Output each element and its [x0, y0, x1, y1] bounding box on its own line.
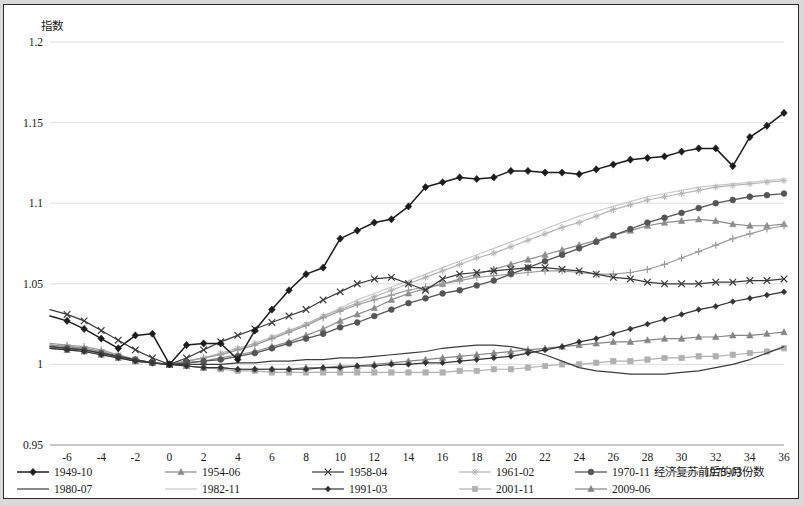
marker-diamond [610, 161, 617, 168]
marker-diamond [98, 335, 105, 342]
x-tick-label: -6 [62, 451, 72, 463]
x-tick-label: 8 [303, 451, 309, 463]
series-2009-06 [50, 329, 787, 372]
legend-item-1991-03[interactable]: 1991-03 [312, 483, 388, 495]
marker-diamond [662, 316, 667, 322]
legend-label: 2009-06 [612, 483, 651, 495]
legend-label: 2001-11 [496, 483, 534, 495]
legend-item-2001-11[interactable]: 2001-11 [459, 483, 534, 495]
marker-circle [252, 350, 258, 356]
legend-item-1961-02[interactable]: 1961-02 [459, 466, 535, 478]
x-tick-label: 0 [167, 451, 173, 463]
marker-star [678, 190, 685, 197]
marker-x [320, 297, 327, 304]
series-1980-07 [50, 345, 784, 374]
marker-diamond [713, 303, 718, 309]
marker-square [594, 360, 599, 365]
marker-square [508, 367, 513, 372]
legend-item-1954-06[interactable]: 1954-06 [165, 466, 241, 478]
series-1982-11 [50, 179, 784, 364]
marker-diamond [679, 312, 684, 318]
legend-label: 1982-11 [202, 483, 240, 495]
marker-plus [712, 242, 719, 249]
legend-item-1970-11[interactable]: 1970-11 [575, 466, 650, 478]
marker-triangle [695, 216, 701, 222]
x-tick-label: 30 [676, 451, 688, 463]
y-tick-label: 1 [37, 358, 43, 370]
marker-star [764, 179, 771, 186]
marker-diamond [576, 171, 583, 178]
marker-x [234, 332, 241, 339]
series-1975-03 [50, 222, 788, 368]
x-tick-label: 2 [201, 451, 207, 463]
legend-item-1982-11[interactable]: 1982-11 [165, 483, 240, 495]
series-1961-02 [50, 177, 787, 368]
marker-x [64, 311, 71, 318]
legend-item-1958-04[interactable]: 1958-04 [312, 466, 388, 478]
x-tick-label: 4 [235, 451, 241, 463]
chart-page: 0.9511.051.11.151.2-6-4-2024681012141618… [0, 0, 804, 506]
marker-star [712, 184, 719, 191]
series-1949-10 [50, 109, 787, 368]
x-tick-label: 6 [269, 451, 275, 463]
marker-star [781, 177, 788, 184]
marker-x [269, 319, 276, 326]
marker-star [661, 193, 668, 200]
marker-diamond [64, 317, 71, 324]
marker-star [576, 219, 583, 226]
marker-plus [627, 269, 634, 276]
marker-square [389, 370, 394, 375]
marker-circle [440, 291, 446, 297]
marker-square [713, 354, 718, 359]
marker-diamond [30, 468, 37, 475]
marker-diamond [627, 156, 634, 163]
marker-diamond [81, 325, 88, 332]
marker-diamond [661, 153, 668, 160]
legend-label: 1980-07 [54, 483, 93, 495]
marker-diamond [439, 179, 446, 186]
legend-label: 1958-04 [349, 466, 388, 478]
marker-plus [388, 291, 395, 298]
marker-diamond [696, 307, 701, 313]
legend-label: 1954-06 [202, 466, 241, 478]
x-tick-label: 14 [403, 451, 415, 463]
marker-star [439, 268, 446, 275]
marker-plus [558, 267, 565, 274]
marker-square [491, 367, 496, 372]
marker-circle [320, 331, 326, 337]
marker-circle [679, 210, 685, 216]
marker-circle [491, 278, 497, 284]
marker-square [440, 370, 445, 375]
marker-x [98, 327, 105, 334]
legend-item-1980-07[interactable]: 1980-07 [17, 483, 93, 495]
marker-square [747, 350, 752, 355]
x-tick-label: 16 [437, 451, 449, 463]
x-tick-label: 12 [369, 451, 381, 463]
marker-diamond [611, 331, 616, 337]
marker-circle [542, 258, 548, 264]
marker-circle [474, 283, 480, 289]
marker-circle [286, 341, 292, 347]
legend-item-2009-06[interactable]: 2009-06 [575, 483, 651, 495]
marker-diamond [628, 326, 633, 332]
marker-star [473, 255, 480, 262]
series-line [50, 345, 784, 374]
x-tick-label: 22 [539, 451, 551, 463]
marker-plus [780, 222, 787, 229]
marker-diamond [764, 292, 769, 298]
y-tick-label: 1.1 [29, 197, 44, 209]
marker-star [422, 274, 429, 281]
marker-square [679, 355, 684, 360]
marker-diamond [593, 166, 600, 173]
marker-x [303, 306, 310, 313]
marker-diamond [576, 339, 581, 345]
marker-square [423, 370, 428, 375]
marker-circle [354, 320, 360, 326]
marker-square [474, 368, 479, 373]
marker-diamond [325, 486, 330, 492]
marker-circle [337, 324, 343, 330]
legend-item-1949-10[interactable]: 1949-10 [17, 466, 93, 478]
marker-x [81, 318, 88, 325]
legend-label: 1970-11 [612, 466, 650, 478]
marker-x [132, 347, 139, 354]
